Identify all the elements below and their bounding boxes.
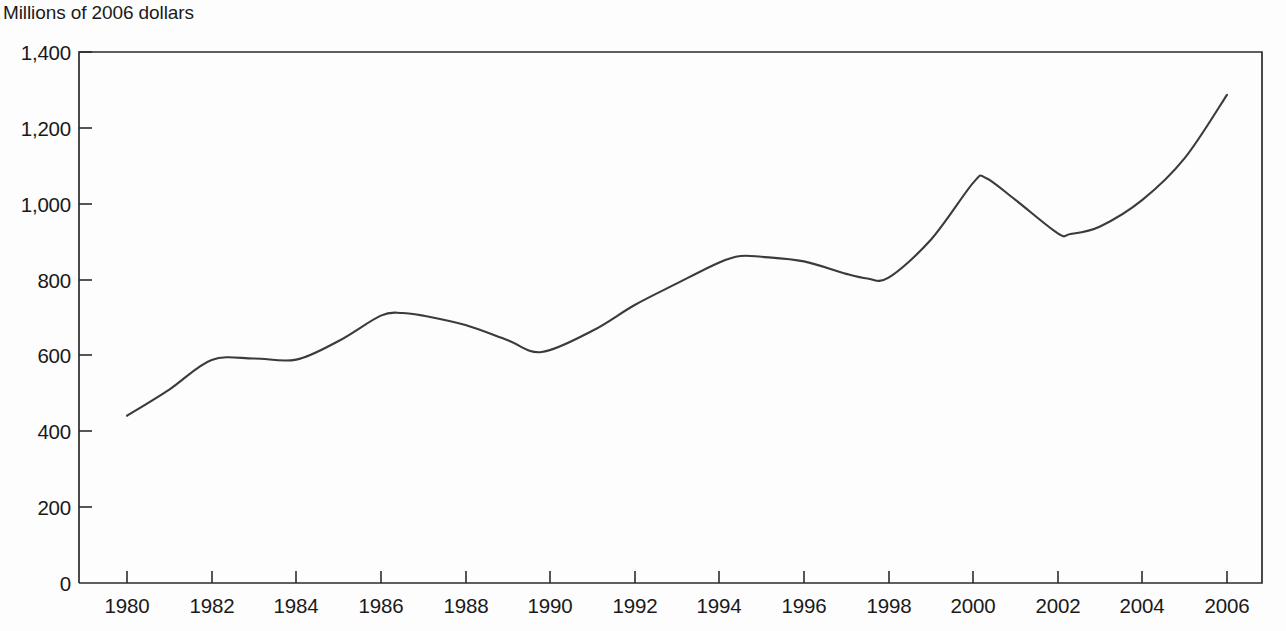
ytick-label-0: 0 xyxy=(60,572,71,595)
ytick-label-600: 600 xyxy=(37,344,71,367)
xtick-label-1980: 1980 xyxy=(105,594,150,617)
xtick-label-1990: 1990 xyxy=(528,594,573,617)
xtick-label-2006: 2006 xyxy=(1205,594,1250,617)
ytick-label-400: 400 xyxy=(37,420,71,443)
xtick-label-1982: 1982 xyxy=(190,594,235,617)
plot-frame xyxy=(79,52,1262,583)
x-axis-tick-labels: 1980 1982 1984 1986 1988 1990 1992 1994 … xyxy=(105,594,1250,617)
xtick-label-1988: 1988 xyxy=(444,594,489,617)
xtick-label-1986: 1986 xyxy=(359,594,404,617)
data-series-line xyxy=(127,95,1227,416)
x-axis-ticks xyxy=(127,571,1227,583)
xtick-label-1992: 1992 xyxy=(613,594,658,617)
y-axis-ticks xyxy=(79,52,92,507)
xtick-label-1984: 1984 xyxy=(274,594,319,617)
y-axis-tick-labels: 1,400 1,200 1,000 800 600 400 200 0 xyxy=(21,41,71,595)
xtick-label-1994: 1994 xyxy=(697,594,742,617)
xtick-label-1998: 1998 xyxy=(867,594,912,617)
ytick-label-1000: 1,000 xyxy=(21,193,71,216)
ytick-label-800: 800 xyxy=(37,269,71,292)
xtick-label-2000: 2000 xyxy=(951,594,996,617)
ytick-label-200: 200 xyxy=(37,496,71,519)
chart-figure: Millions of 2006 dollars 1,400 1,200 1,0… xyxy=(0,0,1286,631)
xtick-label-1996: 1996 xyxy=(782,594,827,617)
line-chart-plot: 1,400 1,200 1,000 800 600 400 200 0 xyxy=(0,0,1286,631)
ytick-label-1400: 1,400 xyxy=(21,41,71,64)
xtick-label-2004: 2004 xyxy=(1120,594,1165,617)
ytick-label-1200: 1,200 xyxy=(21,117,71,140)
xtick-label-2002: 2002 xyxy=(1036,594,1081,617)
